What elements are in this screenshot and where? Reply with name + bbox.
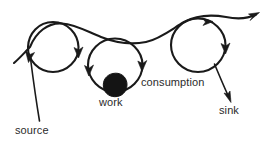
loop-circle-3 [171,19,226,73]
loop-circle-1 [28,22,79,72]
label-source: source [15,124,49,136]
sink-leader-line [215,64,230,99]
label-sink: sink [219,104,239,116]
flow-direction-arrows-group [26,18,231,76]
diagram-canvas: source work consumption sink [0,0,269,144]
label-consumption: consumption [141,76,204,88]
label-work: work [99,96,123,108]
work-blob-group [103,73,127,97]
work-blob [103,73,127,97]
leader-lines-group [31,59,232,122]
diagram-graphics [0,0,269,144]
